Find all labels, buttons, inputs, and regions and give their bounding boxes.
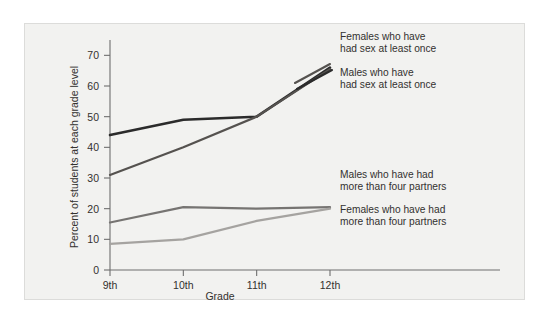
annotation-males-partners-line2: more than four partners xyxy=(340,181,446,192)
chart-figure: 010203040506070 9th10th11th12th Percent … xyxy=(0,0,550,323)
y-tick-label: 40 xyxy=(87,141,99,153)
annotation-males-sex-line2: had sex at least once xyxy=(340,79,437,90)
annotation-females-partners-line1: Females who have had xyxy=(340,204,446,215)
annotation-females-sex-line1: Females who have xyxy=(340,31,426,42)
x-axis-ticks: 9th10th11th12th xyxy=(103,270,341,291)
y-tick-label: 60 xyxy=(87,80,99,92)
annotation-females-sex-line2: had sex at least once xyxy=(340,43,437,54)
y-tick-label: 10 xyxy=(87,233,99,245)
y-tick-label: 50 xyxy=(87,111,99,123)
x-tick-label-11th: 11th xyxy=(247,279,267,291)
series-line-1 xyxy=(110,69,330,175)
series-line-3 xyxy=(110,209,330,244)
x-tick-label-12th: 12th xyxy=(320,279,341,291)
y-tick-label: 30 xyxy=(87,172,99,184)
x-tick-label-10th: 10th xyxy=(173,279,194,291)
annotation-males-sex-line1: Males who have xyxy=(340,67,414,78)
series-line-0 xyxy=(110,68,330,135)
x-tick-label-9th: 9th xyxy=(103,279,118,291)
y-tick-label: 70 xyxy=(87,49,99,61)
line-chart: 010203040506070 9th10th11th12th Percent … xyxy=(0,0,550,323)
annotation-males-partners-line1: Males who have had xyxy=(340,169,434,180)
series-lines xyxy=(110,68,330,244)
y-axis-ticks: 010203040506070 xyxy=(87,49,110,276)
y-tick-label: 0 xyxy=(93,264,99,276)
annotation-females-partners-line2: more than four partners xyxy=(340,216,446,227)
annotation-labels: Females who have had sex at least once M… xyxy=(340,31,446,227)
x-axis-title: Grade xyxy=(205,290,234,302)
y-tick-label: 20 xyxy=(87,203,99,215)
y-axis-title: Percent of students at each grade level xyxy=(68,66,80,248)
